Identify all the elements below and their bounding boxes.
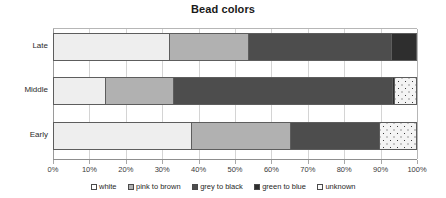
- legend-item-unknown[interactable]: unknown: [317, 182, 356, 191]
- x-tick-mark: [344, 160, 345, 164]
- x-tick-label: 60%: [264, 165, 279, 174]
- y-axis: LateMiddleEarly: [0, 28, 48, 160]
- x-tick-label: 30%: [155, 165, 170, 174]
- y-axis-label-middle: Middle: [2, 85, 48, 95]
- x-tick-label: 90%: [373, 165, 388, 174]
- x-tick-label: 70%: [300, 165, 315, 174]
- bar-row-late: [53, 33, 417, 61]
- bar-segment-middle-unknown: [394, 77, 417, 105]
- x-tick-label: 0%: [48, 165, 59, 174]
- legend-item-green-to-blue[interactable]: green to blue: [254, 182, 306, 191]
- legend-label: grey to black: [200, 182, 243, 191]
- x-tick-label: 80%: [337, 165, 352, 174]
- legend-label: pink to brown: [136, 182, 181, 191]
- bar-row-early: [53, 122, 417, 150]
- bar-segment-early-grey-to-black: [290, 122, 379, 150]
- bar-segment-middle-white: [53, 77, 105, 105]
- x-tick-label: 100%: [407, 165, 426, 174]
- gridline-100%: [417, 29, 418, 159]
- bar-segment-middle-grey-to-black: [173, 77, 391, 105]
- bar-segment-middle-pink-to-brown: [105, 77, 173, 105]
- legend-swatch-icon: [91, 184, 97, 190]
- legend-swatch-icon: [192, 184, 198, 190]
- x-tick-mark: [162, 160, 163, 164]
- plot-area: [53, 28, 417, 160]
- legend-swatch-icon: [317, 184, 323, 190]
- bar-segment-late-pink-to-brown: [169, 33, 247, 61]
- legend-item-grey-to-black[interactable]: grey to black: [192, 182, 243, 191]
- bar-segment-late-white: [53, 33, 169, 61]
- bead-colors-chart: Bead colors LateMiddleEarly 0%10%20%30%4…: [0, 0, 446, 198]
- x-tick-mark: [89, 160, 90, 164]
- bar-segment-early-pink-to-brown: [191, 122, 289, 150]
- x-tick-mark: [199, 160, 200, 164]
- y-axis-label-early: Early: [2, 130, 48, 140]
- x-tick-mark: [126, 160, 127, 164]
- legend-item-pink-to-brown[interactable]: pink to brown: [128, 182, 181, 191]
- legend-label: unknown: [325, 182, 355, 191]
- bar-segment-late-grey-to-black: [248, 33, 392, 61]
- chart-title: Bead colors: [0, 3, 446, 15]
- chart-legend: whitepink to browngrey to blackgreen to …: [0, 182, 446, 191]
- bar-row-middle: [53, 77, 417, 105]
- x-tick-label: 20%: [118, 165, 133, 174]
- legend-label: green to blue: [262, 182, 306, 191]
- legend-label: white: [99, 182, 117, 191]
- x-tick-mark: [235, 160, 236, 164]
- x-axis: 0%10%20%30%40%50%60%70%80%90%100%: [53, 160, 417, 176]
- legend-swatch-icon: [254, 184, 260, 190]
- y-axis-label-late: Late: [2, 41, 48, 51]
- x-tick-label: 50%: [227, 165, 242, 174]
- legend-swatch-icon: [128, 184, 134, 190]
- bar-segment-early-white: [53, 122, 191, 150]
- x-tick-mark: [308, 160, 309, 164]
- legend-item-white[interactable]: white: [91, 182, 117, 191]
- x-tick-mark: [381, 160, 382, 164]
- bar-segment-late-green-to-blue: [391, 33, 416, 61]
- bar-segment-early-unknown: [379, 122, 417, 150]
- x-tick-mark: [417, 160, 418, 164]
- x-tick-mark: [271, 160, 272, 164]
- x-tick-mark: [53, 160, 54, 164]
- x-tick-label: 10%: [82, 165, 97, 174]
- x-tick-label: 40%: [191, 165, 206, 174]
